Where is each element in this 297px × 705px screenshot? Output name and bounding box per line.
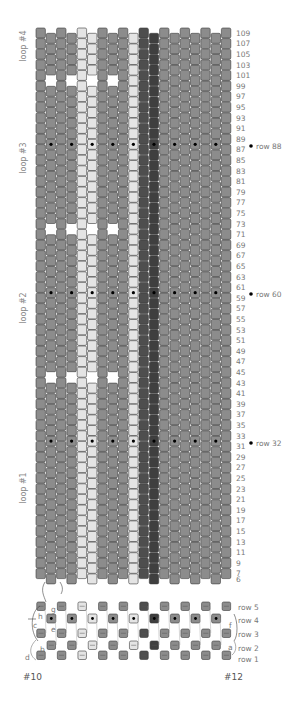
bead-grid [36,28,231,584]
bead [118,410,127,420]
bead [211,171,220,181]
bead [98,28,107,38]
detail-row-5-label: row 5 [238,603,259,612]
bead [201,113,210,123]
bead [211,479,220,489]
marker-dot-icon [91,617,94,620]
bead [149,298,158,308]
bead [57,102,66,112]
bead [118,484,127,494]
thread-line [189,606,190,633]
bead [221,388,230,398]
bead [160,39,169,49]
bead [57,166,66,176]
bead [46,553,55,563]
bead [160,198,169,208]
bead [149,203,158,213]
thread-letter-f: f [229,621,232,630]
bead [149,214,158,224]
bead [108,426,117,436]
bead [139,314,148,324]
bead [160,431,169,441]
bead [221,155,230,165]
bead [211,383,220,393]
bead [67,245,76,255]
bead [57,431,66,441]
bead [98,526,107,536]
bead [180,155,189,165]
bead [46,330,55,340]
marker-dot-icon [173,143,176,146]
bead [67,479,76,489]
bead [191,457,200,467]
bead [46,298,55,308]
row-number: 21 [236,495,246,504]
bead [221,28,230,38]
bead [170,383,179,393]
bead [118,251,127,261]
bead [170,298,179,308]
bead [88,65,97,75]
bead [57,505,66,515]
bead [36,92,45,102]
bead [46,245,55,255]
bead [139,441,148,451]
bead [108,351,117,361]
bead [118,367,127,377]
row-number: 83 [236,167,246,176]
bead [88,129,97,139]
bead [98,547,107,557]
bead [108,309,117,319]
row-number: 9 [236,559,241,568]
bead [170,521,179,531]
bead [118,134,127,144]
bead [118,123,127,133]
bead [201,335,210,345]
bead [67,65,76,75]
bead [221,335,230,345]
bead [98,388,107,398]
row-number: 81 [236,177,246,186]
bead [160,240,169,250]
bead [129,44,138,54]
marker-dot-icon [91,143,94,146]
bead [77,187,86,197]
bead [118,198,127,208]
bead [221,123,230,133]
bead [149,76,158,86]
bead [139,399,148,409]
bead [201,410,210,420]
bead [46,203,55,213]
bead [98,494,107,504]
row-number: 37 [236,410,246,419]
marker-dot-icon [214,143,217,146]
bead [67,161,76,171]
bead [191,55,200,65]
row-number: 79 [236,188,246,197]
bead [180,123,189,133]
bead [221,145,230,155]
bead [221,441,230,451]
bead [211,457,220,467]
bead [98,134,107,144]
bead [118,187,127,197]
bead [108,203,117,213]
bead [191,235,200,245]
bead [201,166,210,176]
bead [221,70,230,80]
bead [67,426,76,436]
bead [46,235,55,245]
bead [201,452,210,462]
bead [201,251,210,261]
row-number: 101 [236,71,251,80]
bead [36,441,45,451]
bead [46,351,55,361]
bead [77,145,86,155]
bead [46,161,55,171]
bead [77,102,86,112]
row-number: 103 [236,61,251,70]
bead [170,108,179,118]
row-number: 73 [236,220,246,229]
bead [88,415,97,425]
bead [201,569,210,579]
